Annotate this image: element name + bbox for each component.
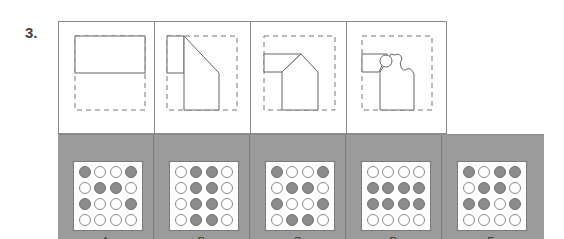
- filled-dot: [463, 166, 475, 178]
- open-dot: [302, 198, 314, 210]
- tab-pentagon-figure: [251, 22, 347, 134]
- open-dot: [494, 214, 506, 226]
- filled-dot: [317, 198, 329, 210]
- filled-dot: [367, 182, 379, 194]
- open-dot: [175, 182, 187, 194]
- filled-dot: [206, 214, 218, 226]
- sequence-panel-3: [251, 22, 347, 133]
- open-dot: [110, 214, 122, 226]
- tab-circle-bumps-figure: [347, 22, 443, 134]
- options-row: A B C D: [58, 134, 544, 239]
- filled-dot: [286, 214, 298, 226]
- option-label: C: [250, 235, 345, 239]
- open-dot: [221, 198, 233, 210]
- dot-grid: [361, 161, 431, 231]
- dot-grid: [457, 161, 527, 231]
- filled-dot: [206, 166, 218, 178]
- open-dot: [463, 214, 475, 226]
- filled-dot: [398, 198, 410, 210]
- filled-dot: [302, 214, 314, 226]
- filled-dot: [190, 198, 202, 210]
- open-dot: [125, 182, 137, 194]
- filled-dot: [190, 182, 202, 194]
- open-dot: [271, 214, 283, 226]
- open-dot: [413, 214, 425, 226]
- open-dot: [509, 214, 521, 226]
- sequence-panel-4: [347, 22, 444, 133]
- tab-diagonal-figure: [155, 22, 251, 134]
- sequence-panel-1: [59, 22, 155, 133]
- open-dot: [175, 214, 187, 226]
- open-dot: [94, 214, 106, 226]
- open-dot: [463, 182, 475, 194]
- open-dot: [494, 198, 506, 210]
- open-dot: [478, 166, 490, 178]
- option-label: A: [58, 235, 153, 239]
- open-dot: [271, 182, 283, 194]
- filled-dot: [110, 182, 122, 194]
- open-dot: [382, 166, 394, 178]
- sequence-panel-2: [155, 22, 251, 133]
- option-b[interactable]: B: [154, 135, 250, 239]
- open-dot: [79, 214, 91, 226]
- open-dot: [110, 198, 122, 210]
- filled-dot: [190, 166, 202, 178]
- option-label: D: [346, 235, 441, 239]
- filled-dot: [125, 198, 137, 210]
- open-dot: [79, 182, 91, 194]
- open-dot: [302, 166, 314, 178]
- filled-dot: [494, 182, 506, 194]
- filled-dot: [494, 166, 506, 178]
- open-dot: [317, 214, 329, 226]
- option-e[interactable]: E: [442, 135, 540, 239]
- filled-dot: [463, 198, 475, 210]
- open-dot: [286, 166, 298, 178]
- open-dot: [286, 198, 298, 210]
- filled-dot: [317, 166, 329, 178]
- filled-dot: [190, 214, 202, 226]
- open-dot: [221, 214, 233, 226]
- open-dot: [382, 214, 394, 226]
- open-dot: [175, 166, 187, 178]
- open-dot: [478, 214, 490, 226]
- dot-grid: [73, 161, 143, 231]
- option-a[interactable]: A: [58, 135, 154, 239]
- filled-dot: [478, 198, 490, 210]
- filled-dot: [206, 198, 218, 210]
- open-dot: [317, 182, 329, 194]
- option-d[interactable]: D: [346, 135, 442, 239]
- sequence-row: [58, 21, 447, 134]
- open-dot: [175, 198, 187, 210]
- open-dot: [509, 182, 521, 194]
- filled-dot: [206, 182, 218, 194]
- option-label: E: [442, 235, 540, 239]
- filled-dot: [125, 166, 137, 178]
- open-dot: [398, 166, 410, 178]
- filled-dot: [413, 198, 425, 210]
- open-dot: [110, 166, 122, 178]
- filled-dot: [382, 182, 394, 194]
- question-number: 3.: [25, 24, 38, 41]
- open-dot: [413, 166, 425, 178]
- filled-dot: [398, 182, 410, 194]
- filled-dot: [509, 166, 521, 178]
- option-c[interactable]: C: [250, 135, 346, 239]
- filled-dot: [382, 198, 394, 210]
- dot-grid: [265, 161, 335, 231]
- filled-dot: [79, 166, 91, 178]
- open-dot: [125, 214, 137, 226]
- open-dot: [221, 166, 233, 178]
- filled-dot: [478, 182, 490, 194]
- open-dot: [367, 214, 379, 226]
- open-dot: [221, 182, 233, 194]
- open-dot: [94, 166, 106, 178]
- option-label: B: [154, 235, 249, 239]
- dot-grid: [169, 161, 239, 231]
- filled-dot: [413, 182, 425, 194]
- rectangle-split-figure: [59, 22, 155, 134]
- open-dot: [398, 214, 410, 226]
- open-dot: [94, 198, 106, 210]
- filled-dot: [271, 198, 283, 210]
- filled-dot: [367, 198, 379, 210]
- open-dot: [367, 166, 379, 178]
